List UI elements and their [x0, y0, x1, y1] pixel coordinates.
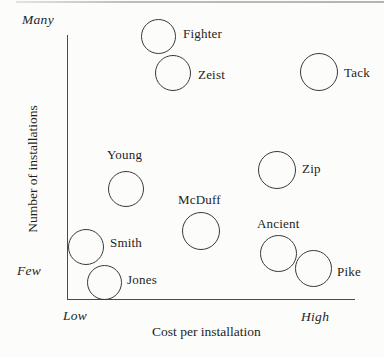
x-axis-title: Cost per installation [152, 324, 261, 340]
data-point-label-jones: Jones [127, 272, 157, 288]
y-axis-line [67, 35, 68, 300]
data-point-circle-young [108, 171, 144, 207]
data-point-label-tack: Tack [344, 65, 370, 81]
data-point-circle-zip [258, 151, 296, 189]
data-point-label-zip: Zip [302, 161, 321, 177]
data-point-label-fighter: Fighter [183, 26, 222, 42]
data-point-circle-ancient [260, 235, 297, 272]
top-rule-divider [16, 1, 384, 3]
data-point-circle-fighter [141, 19, 176, 54]
data-point-circle-tack [300, 53, 338, 91]
data-point-circle-pike [295, 250, 332, 287]
data-point-label-young: Young [107, 147, 142, 163]
data-point-label-mcduff: McDuff [178, 192, 221, 208]
data-point-label-zeist: Zeist [198, 67, 225, 83]
y-axis-max-label: Many [22, 12, 54, 28]
data-point-circle-mcduff [182, 212, 220, 250]
data-point-label-smith: Smith [110, 235, 142, 251]
x-axis-min-label: Low [63, 308, 87, 324]
data-point-circle-jones [87, 265, 122, 300]
data-point-circle-zeist [155, 55, 191, 91]
data-point-circle-smith [68, 229, 104, 265]
scatter-figure: Many Few Low High Number of installation… [0, 0, 384, 357]
y-axis-min-label: Few [17, 263, 41, 279]
data-point-label-pike: Pike [337, 264, 361, 280]
data-point-label-ancient: Ancient [257, 216, 300, 232]
x-axis-line [67, 299, 355, 300]
x-axis-max-label: High [301, 309, 329, 325]
y-axis-title: Number of installations [25, 105, 41, 232]
